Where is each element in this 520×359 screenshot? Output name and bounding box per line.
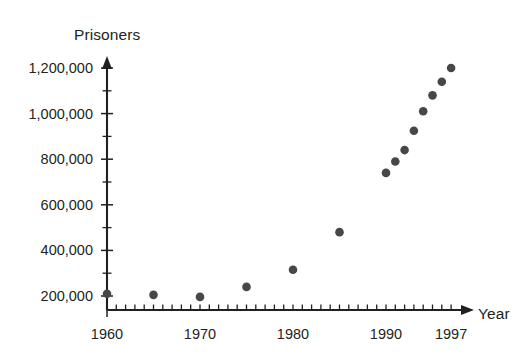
data-point <box>410 126 419 135</box>
data-point <box>149 291 158 300</box>
data-point <box>400 146 409 155</box>
y-axis-title: Prisoners <box>74 26 140 44</box>
x-axis-tick-label: 1980 <box>277 326 309 342</box>
data-point <box>419 107 428 116</box>
data-point <box>196 293 205 302</box>
data-point <box>428 91 437 100</box>
x-axis-tick-label: 1970 <box>184 326 216 342</box>
data-point <box>242 283 251 292</box>
y-axis-tick-label: 200,000 <box>0 288 93 304</box>
scatter-plot-canvas <box>0 0 520 359</box>
y-axis-tick-label: 600,000 <box>0 197 93 213</box>
y-axis-tick-label: 400,000 <box>0 242 93 258</box>
x-axis-tick-label: 1960 <box>91 326 123 342</box>
axes-group <box>102 56 474 315</box>
data-points-group <box>103 64 456 302</box>
x-axis-title: Year <box>478 305 510 323</box>
y-axis-tick-label: 1,200,000 <box>0 60 93 76</box>
y-axis-arrow-icon <box>102 56 112 69</box>
y-axis-tick-label: 800,000 <box>0 151 93 167</box>
x-axis-tick-label: 1997 <box>435 326 467 342</box>
ticks-group <box>101 68 451 317</box>
y-axis-tick-label: 1,000,000 <box>0 106 93 122</box>
data-point <box>391 157 400 166</box>
data-point <box>335 228 344 237</box>
data-point <box>103 289 112 298</box>
data-point <box>382 169 391 178</box>
x-axis-arrow-icon <box>461 305 474 315</box>
data-point <box>438 77 447 86</box>
x-axis-tick-label: 1990 <box>370 326 402 342</box>
data-point <box>447 64 456 73</box>
chart-figure: Prisoners Year 200,000400,000600,000800,… <box>0 0 520 359</box>
data-point <box>289 265 298 274</box>
